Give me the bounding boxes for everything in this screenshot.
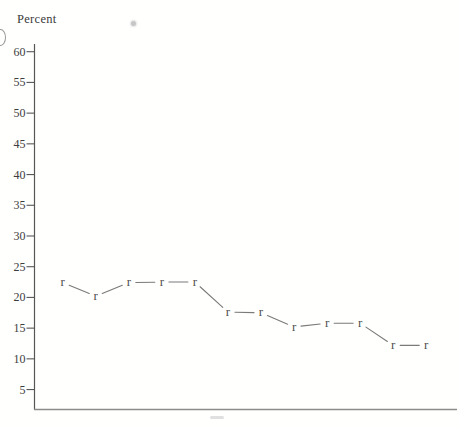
data-point-marker: r	[292, 319, 297, 334]
y-tick-label: 35	[14, 198, 26, 212]
line-chart: 60555045403530252015105rrrrrrrrrrrr	[0, 0, 459, 428]
line-segment	[102, 285, 122, 293]
data-point-marker: r	[160, 274, 165, 289]
data-point-marker: r	[127, 274, 132, 289]
data-point-marker: r	[325, 315, 330, 330]
data-point-marker: r	[226, 304, 231, 319]
line-segment	[301, 324, 320, 326]
y-tick-label: 10	[14, 352, 26, 366]
data-point-marker: r	[193, 274, 198, 289]
line-chart-figure: Percent 60555045403530252015105rrrrrrrrr…	[0, 0, 459, 428]
data-point-marker: r	[94, 288, 99, 303]
y-tick-label: 25	[14, 260, 26, 274]
data-point-marker: r	[259, 304, 264, 319]
y-tick-label: 5	[20, 383, 26, 397]
line-segment	[200, 287, 223, 308]
line-segment	[366, 327, 387, 341]
y-tick-label: 45	[14, 137, 26, 151]
y-tick-label: 60	[14, 45, 26, 59]
data-point-marker: r	[358, 315, 363, 330]
line-segment	[69, 285, 89, 293]
y-tick-label: 55	[14, 75, 26, 89]
y-tick-label: 50	[14, 106, 26, 120]
data-point-marker: r	[61, 274, 66, 289]
y-tick-label: 15	[14, 321, 26, 335]
y-tick-label: 40	[14, 168, 26, 182]
y-tick-label: 30	[14, 229, 26, 243]
line-segment	[267, 316, 287, 325]
data-point-marker: r	[424, 337, 429, 352]
y-tick-label: 20	[14, 290, 26, 304]
data-point-marker: r	[391, 337, 396, 352]
